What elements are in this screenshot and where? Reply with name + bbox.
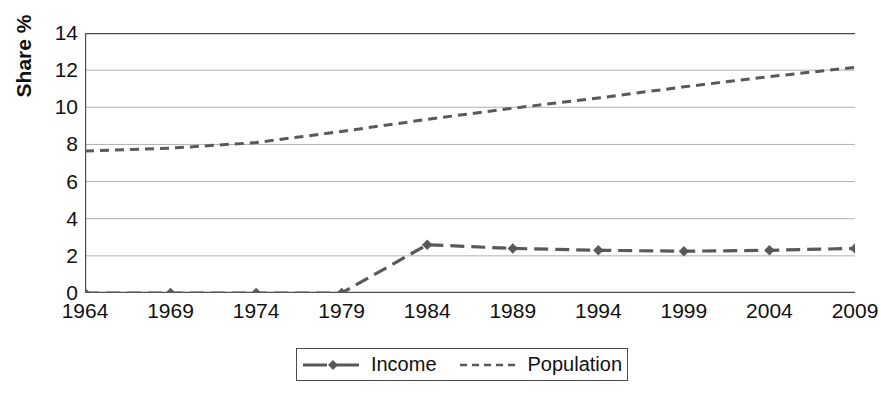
series-lines [85,67,855,293]
x-axis-tick-label: 1999 [661,299,708,323]
y-axis-tick-label: 8 [44,132,78,156]
x-axis-tick-label: 1989 [489,299,536,323]
axis-lines [85,33,855,293]
x-axis-tick-label: 1964 [62,299,109,323]
legend-items: IncomePopulation [297,349,627,380]
x-axis-tick-label: 1994 [575,299,622,323]
data-point-marker [679,246,689,256]
legend-item-income[interactable]: Income [302,353,437,376]
y-axis-tick-label: 10 [44,95,78,119]
data-point-marker [508,243,518,253]
x-axis-tick-label: 1984 [404,299,451,323]
x-axis-tick-label: 2009 [832,299,879,323]
y-axis-tick-label: 14 [44,21,78,45]
line-chart: Share % 02468101214 19641969197419791984… [0,0,881,406]
legend-label: Population [528,353,623,376]
y-axis-tick-label: 4 [44,207,78,231]
data-point-marker [251,288,261,293]
plot-svg [85,33,855,293]
x-axis-tick-label: 1974 [233,299,280,323]
legend-item-population[interactable]: Population [459,353,623,376]
data-point-marker [764,245,774,255]
data-point-marker [165,288,175,293]
dashed-line-icon [459,358,521,372]
data-point-marker [850,243,855,253]
x-axis-tick-label: 1979 [318,299,365,323]
series-markers [85,240,855,293]
line-with-diamond-marker-icon [302,358,364,372]
gridlines [85,33,855,293]
y-axis-tick-labels: 02468101214 [44,0,78,340]
y-axis-tick-label: 12 [44,58,78,82]
y-axis-tick-label: 6 [44,170,78,194]
legend-label: Income [371,353,437,376]
y-axis-title: Share % [6,0,42,131]
series-line-income [85,245,855,293]
x-axis-tick-label: 2004 [746,299,793,323]
chart-legend: IncomePopulation [296,348,628,381]
x-axis-tick-labels: 1964196919741979198419891994199920042009 [0,299,881,329]
plot-area [85,33,855,293]
x-axis-tick-label: 1969 [147,299,194,323]
data-point-marker [593,245,603,255]
series-line-population [85,67,855,151]
y-axis-tick-label: 2 [44,244,78,268]
